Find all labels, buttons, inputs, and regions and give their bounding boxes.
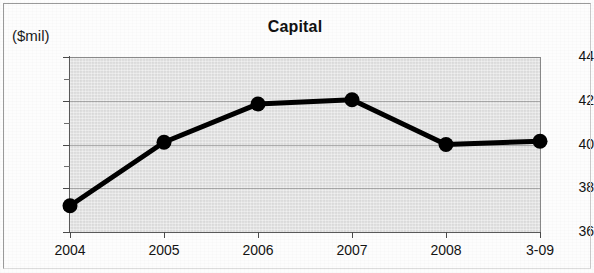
x-tick-label: 2008 [411, 242, 481, 258]
y-axis-unit-label: ($mil) [12, 27, 50, 44]
y-tick-minor [64, 166, 70, 167]
x-tick [164, 232, 165, 238]
capital-line-chart: 3638404244 200420052006200720083-09 Capi… [0, 0, 594, 273]
y-tick-minor [64, 123, 70, 124]
chart-title: Capital [150, 18, 440, 36]
x-tick-label: 3-09 [505, 242, 575, 258]
y-tick-minor [64, 79, 70, 80]
y-tick-label: 44 [552, 48, 594, 64]
x-tick [258, 232, 259, 238]
y-tick-label: 36 [552, 223, 594, 239]
y-tick [63, 232, 70, 233]
y-tick-label: 42 [552, 92, 594, 108]
y-tick [63, 188, 70, 189]
x-tick [352, 232, 353, 238]
x-tick-label: 2006 [223, 242, 293, 258]
x-tick-label: 2004 [35, 242, 105, 258]
y-tick [63, 57, 70, 58]
x-tick [446, 232, 447, 238]
y-tick [63, 145, 70, 146]
y-tick-minor [64, 210, 70, 211]
x-tick-label: 2007 [317, 242, 387, 258]
x-tick [70, 232, 71, 238]
x-axis-line [69, 232, 541, 233]
gridline [70, 188, 540, 189]
x-tick-label: 2005 [129, 242, 199, 258]
y-tick [63, 101, 70, 102]
y-tick-label: 40 [552, 136, 594, 152]
gridline [70, 101, 540, 102]
gridline [70, 145, 540, 146]
y-tick-label: 38 [552, 179, 594, 195]
x-tick [540, 232, 541, 238]
